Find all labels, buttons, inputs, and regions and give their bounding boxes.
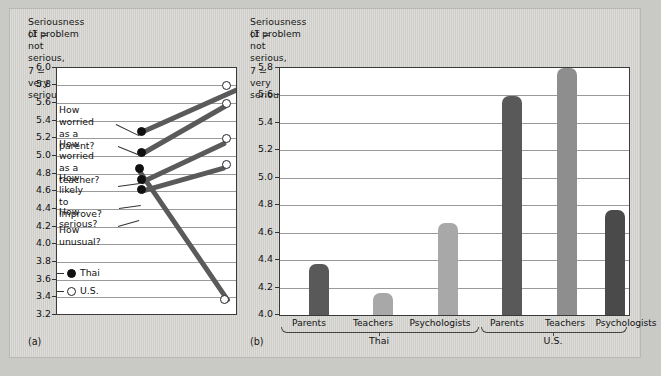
group-label-thai: Thai bbox=[344, 335, 414, 346]
group-brace-thai bbox=[281, 327, 479, 333]
data-point-us-how-worried-as-a-parent bbox=[222, 81, 231, 90]
panel-b-ytick-5-0: 5.0 bbox=[247, 172, 273, 182]
bar-thai-teachers bbox=[373, 293, 393, 315]
panel-b-ytick-4-0: 4.0 bbox=[247, 309, 273, 319]
legend-label-thai: Thai bbox=[80, 267, 100, 278]
legend-tick bbox=[57, 291, 64, 292]
bar-us-psychologists bbox=[605, 210, 625, 315]
panel-b-ytick-4-8: 4.8 bbox=[247, 199, 273, 209]
bar-thai-parents bbox=[309, 264, 329, 315]
bar-thai-psychologists bbox=[438, 223, 458, 315]
data-point-us-how-likely-to-improve bbox=[220, 295, 229, 304]
legend-marker-us bbox=[67, 287, 76, 296]
panel-b-ytick-4-6: 4.6 bbox=[247, 227, 273, 237]
gridline bbox=[57, 297, 236, 298]
group-label-us: U.S. bbox=[518, 335, 588, 346]
data-point-thai-how-unusual bbox=[137, 185, 146, 194]
legend-marker-thai bbox=[67, 269, 76, 278]
gridline bbox=[57, 262, 236, 263]
panel-a-letter: (a) bbox=[28, 336, 41, 347]
bar-us-parents bbox=[502, 96, 522, 315]
panel-b-ytick-5-8: 5.8 bbox=[247, 62, 273, 72]
gridline bbox=[57, 280, 236, 281]
bar-us-teachers bbox=[557, 68, 577, 315]
panel-a-ytick-3-8: 3.8 bbox=[25, 256, 51, 266]
panel-a-ytick-3-6: 3.6 bbox=[25, 274, 51, 284]
panel-a-ytick-5-0: 5.0 bbox=[25, 150, 51, 160]
panel-a-ytick-5-2: 5.2 bbox=[25, 132, 51, 142]
annotation-how-unusual: How unusual? bbox=[59, 224, 101, 248]
panel-b-ytick-4-4: 4.4 bbox=[247, 254, 273, 264]
slope-line-how-likely-to-improve bbox=[137, 169, 231, 303]
panel-a-ytick-5-4: 5.4 bbox=[25, 115, 51, 125]
legend-tick bbox=[57, 273, 64, 274]
panel-a-ytick-4-8: 4.8 bbox=[25, 168, 51, 178]
legend-label-us: U.S. bbox=[80, 285, 99, 296]
panel-a-ytick-6-0: 6.0 bbox=[25, 62, 51, 72]
panel-b-plot-area bbox=[279, 67, 630, 316]
panel-b-ytick-4-2: 4.2 bbox=[247, 282, 273, 292]
panel-a-ytick-5-6: 5.6 bbox=[25, 97, 51, 107]
panel-b-ytick-5-4: 5.4 bbox=[247, 117, 273, 127]
panel-a-ytick-3-4: 3.4 bbox=[25, 291, 51, 301]
data-point-us-how-worried-as-a-teacher bbox=[222, 99, 231, 108]
panel-b-ytick-5-2: 5.2 bbox=[247, 144, 273, 154]
panel-b-ytick-5-6: 5.6 bbox=[247, 89, 273, 99]
panel-b-letter: (b) bbox=[250, 336, 264, 347]
panel-a-ytick-4-0: 4.0 bbox=[25, 238, 51, 248]
panel-a-ytick-4-6: 4.6 bbox=[25, 185, 51, 195]
data-point-us-how-serious bbox=[222, 134, 231, 143]
gridline bbox=[57, 85, 236, 86]
panel-a-ytick-5-8: 5.8 bbox=[25, 79, 51, 89]
panel-a-ytick-3-2: 3.2 bbox=[25, 309, 51, 319]
panel-a-ytick-4-2: 4.2 bbox=[25, 221, 51, 231]
data-point-thai-how-likely-to-improve bbox=[135, 164, 144, 173]
group-brace-us bbox=[481, 327, 627, 333]
panel-a-ytick-4-4: 4.4 bbox=[25, 203, 51, 213]
data-point-us-how-unusual bbox=[222, 160, 231, 169]
